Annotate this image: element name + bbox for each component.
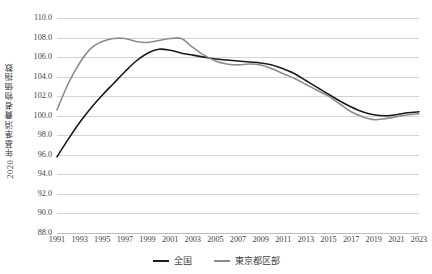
x-axis-tick-label: 2001 xyxy=(162,236,178,244)
x-axis-tick-label: 1995 xyxy=(94,236,110,244)
y-axis-tick-label: 106.0 xyxy=(16,53,56,61)
y-axis-tick-label: 104.0 xyxy=(16,73,56,81)
y-axis-tick-label: 108.0 xyxy=(16,33,56,41)
series-line xyxy=(57,38,419,120)
y-axis-tick-label: 96.0 xyxy=(16,151,56,159)
x-axis-tick-label: 2005 xyxy=(207,236,223,244)
series-lines xyxy=(57,18,419,233)
x-axis-tick-label: 1997 xyxy=(117,236,133,244)
y-axis-tick-label: 90.0 xyxy=(16,209,56,217)
legend-item[interactable]: 全国 xyxy=(153,254,192,267)
x-axis-tick-label: 1993 xyxy=(71,236,87,244)
x-axis-tick-label: 2019 xyxy=(366,236,382,244)
x-axis-tick-label: 2015 xyxy=(320,236,336,244)
y-axis-tick-label: 100.0 xyxy=(16,112,56,120)
chart-legend: 全国東京都区部 xyxy=(0,254,432,267)
x-axis-tick-label: 2007 xyxy=(230,236,246,244)
legend-line-swatch-icon xyxy=(153,260,169,262)
y-axis-tick-label: 102.0 xyxy=(16,92,56,100)
x-axis-tick-label: 2021 xyxy=(388,236,404,244)
y-axis-title-label: 2020 年基準消費者物価指数 xyxy=(4,62,16,179)
x-axis-tick-label: 1991 xyxy=(49,236,65,244)
x-axis-tick-label: 2023 xyxy=(411,236,427,244)
legend-line-swatch-icon xyxy=(214,260,230,262)
legend-item-label: 全国 xyxy=(174,254,192,267)
y-axis-tick-label: 94.0 xyxy=(16,170,56,178)
y-axis-tick-labels: 110.0108.0106.0104.0102.0100.098.096.094… xyxy=(16,0,56,274)
y-axis-tick-label: 92.0 xyxy=(16,190,56,198)
legend-item-label: 東京都区部 xyxy=(235,254,280,267)
y-axis-tick-label: 110.0 xyxy=(16,14,56,22)
x-axis-tick-label: 2003 xyxy=(185,236,201,244)
x-axis-tick-label: 2011 xyxy=(275,236,291,244)
legend-item[interactable]: 東京都区部 xyxy=(214,254,280,267)
x-axis-tick-labels: 1991199319951997199920012003200520072009… xyxy=(57,236,419,250)
consumer-price-index-line-chart: 2020 年基準消費者物価指数 110.0108.0106.0104.0102.… xyxy=(0,0,432,274)
gridline xyxy=(57,233,419,234)
x-axis-tick-label: 1999 xyxy=(139,236,155,244)
x-axis-tick-label: 2009 xyxy=(252,236,268,244)
plot-area xyxy=(57,18,419,233)
y-axis-tick-label: 98.0 xyxy=(16,131,56,139)
x-axis-tick-label: 2017 xyxy=(343,236,359,244)
x-axis-tick-label: 2013 xyxy=(298,236,314,244)
